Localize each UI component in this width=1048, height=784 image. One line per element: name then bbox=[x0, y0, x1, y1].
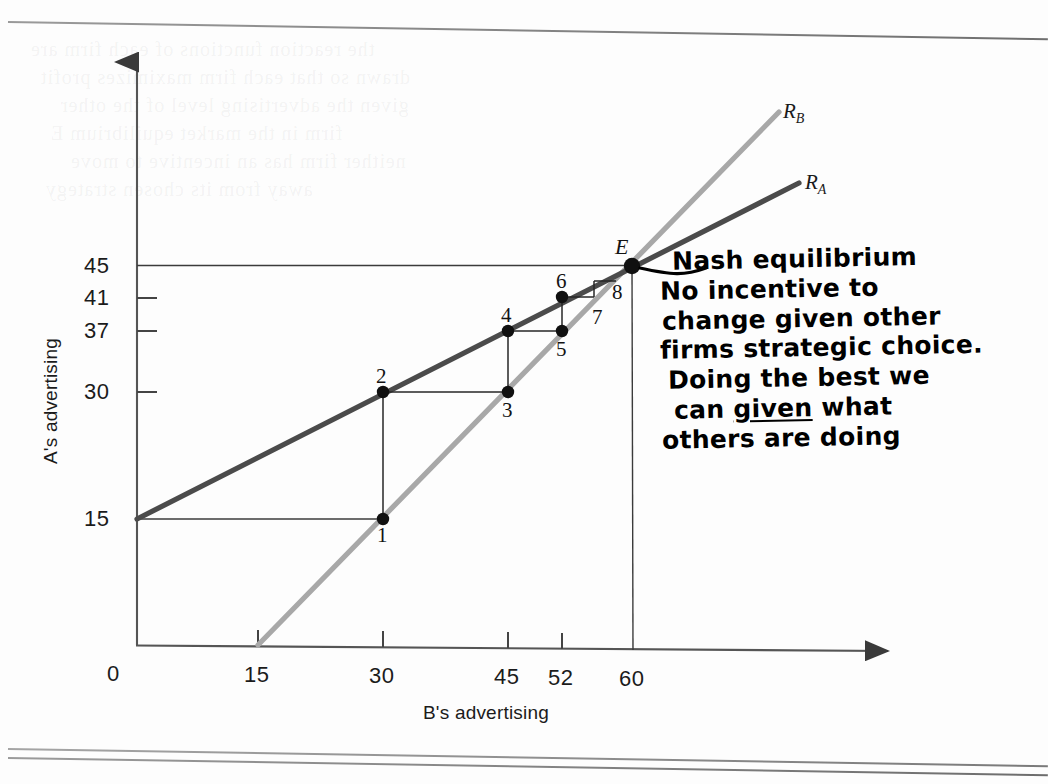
point-label-1: 1 bbox=[377, 523, 388, 548]
y-tick-label-45: 45 bbox=[84, 253, 109, 279]
curve-label-rb-sub: B bbox=[796, 111, 805, 126]
x-tick-label-45: 45 bbox=[494, 664, 519, 690]
point-label-6: 6 bbox=[556, 269, 567, 294]
curve-label-ra-sub: A bbox=[818, 182, 827, 197]
reference-line-x60 bbox=[632, 266, 633, 650]
annotation-underlined-word: given bbox=[733, 393, 813, 424]
point-label-5: 5 bbox=[556, 337, 567, 362]
y-tick-label-41: 41 bbox=[84, 285, 109, 311]
y-axis-title: A's advertising bbox=[40, 338, 62, 464]
y-tick-label-37: 37 bbox=[84, 318, 109, 344]
x-tick-label-60: 60 bbox=[619, 666, 644, 692]
data-point-5 bbox=[556, 325, 568, 337]
curve-label-rb: RB bbox=[783, 99, 804, 127]
x-tick-label-52: 52 bbox=[548, 665, 573, 691]
equilibrium-point-e bbox=[624, 258, 640, 274]
data-point-3 bbox=[502, 386, 514, 398]
curve-label-ra-base: R bbox=[805, 170, 818, 194]
x-tick-label-30: 30 bbox=[369, 663, 394, 689]
y-tick-label-15: 15 bbox=[84, 506, 109, 532]
curve-label-ra: RA bbox=[805, 170, 826, 198]
reference-lines bbox=[137, 266, 633, 651]
x-axis-line bbox=[136, 646, 888, 652]
y-axis-ticks bbox=[137, 298, 157, 392]
point-label-2: 2 bbox=[376, 364, 387, 389]
point-label-4: 4 bbox=[501, 303, 512, 328]
y-tick-label-30: 30 bbox=[84, 379, 109, 405]
page-background: the reaction functions of each firm are … bbox=[0, 0, 1048, 784]
point-label-8: 8 bbox=[612, 280, 623, 305]
point-label-7: 7 bbox=[592, 305, 603, 330]
x-axis-title: B's advertising bbox=[423, 702, 549, 724]
equilibrium-label-e: E bbox=[615, 234, 628, 260]
point-label-3: 3 bbox=[502, 398, 513, 423]
handwritten-annotation: Nash equilibrium No incentive to change … bbox=[660, 243, 1048, 451]
x-tick-label-0: 0 bbox=[107, 661, 120, 687]
x-tick-label-15: 15 bbox=[244, 662, 269, 688]
curve-label-rb-base: R bbox=[783, 99, 796, 123]
